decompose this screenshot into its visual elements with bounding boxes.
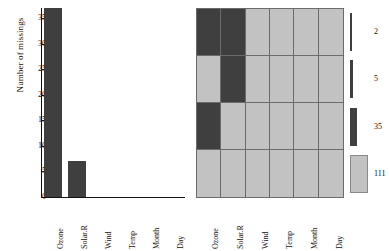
- barplot-y-tick-value: 20: [24, 91, 46, 99]
- barplot-x-label-ozone: Ozone: [56, 228, 65, 249]
- combination-cell: [319, 150, 343, 197]
- combination-cell: [197, 9, 221, 56]
- combination-cell: [246, 9, 270, 56]
- combination-cell: [221, 150, 245, 197]
- barplot-x-label-day: Day: [176, 236, 185, 249]
- legend-count-label: 5: [374, 75, 378, 83]
- barplot-y-tick-label: 30: [12, 40, 46, 48]
- combination-x-label-temp: Temp: [285, 231, 294, 249]
- combination-x-tick-labels: OzoneSolar.RWindTempMonthDay: [196, 200, 344, 251]
- bar-ozone: [44, 8, 62, 197]
- barplot-y-tick-value: 5: [24, 167, 46, 175]
- combination-cell: [246, 56, 270, 103]
- combination-cell: [319, 103, 343, 150]
- barplot-x-tick-labels: OzoneSolar.RWindTempMonthDay: [41, 200, 185, 251]
- legend-count-label: 111: [374, 170, 385, 178]
- barplot-y-tick-value: 10: [24, 142, 46, 150]
- combination-x-label-day: Day: [335, 236, 344, 249]
- combination-cell: [294, 150, 318, 197]
- bar-solar-r: [68, 161, 86, 197]
- combination-count-legend: 2535111: [350, 8, 389, 198]
- combination-x-label-solar-r: Solar.R: [236, 225, 245, 249]
- combination-cell: [197, 56, 221, 103]
- legend-row: 2: [350, 13, 389, 51]
- legend-row: 5: [350, 60, 389, 98]
- combination-cell: [221, 9, 245, 56]
- combination-cell: [197, 150, 221, 197]
- barplot-y-tick-label: 25: [12, 65, 46, 73]
- combination-cell: [221, 56, 245, 103]
- combination-cell: [294, 103, 318, 150]
- legend-proportion-bar: [350, 108, 357, 146]
- barplot-y-tick-label: 15: [12, 116, 46, 124]
- legend-count-label: 2: [374, 28, 378, 36]
- barplot-x-label-wind: Wind: [104, 232, 113, 249]
- combination-cell: [270, 9, 294, 56]
- combination-cell: [319, 9, 343, 56]
- combination-x-label-wind: Wind: [261, 232, 270, 249]
- barplot-y-tick-label: 5: [12, 167, 46, 175]
- combination-cell: [270, 150, 294, 197]
- barplot-y-tick-label: 10: [12, 142, 46, 150]
- combination-cell: [319, 56, 343, 103]
- combination-cell: [294, 9, 318, 56]
- combination-cell: [270, 56, 294, 103]
- combination-cell: [246, 103, 270, 150]
- legend-proportion-bar: [350, 60, 353, 98]
- barplot-x-label-temp: Temp: [128, 231, 137, 249]
- legend-row: 111: [350, 155, 389, 193]
- barplot-x-axis-line: [41, 197, 185, 198]
- combination-grid: [196, 8, 344, 198]
- combination-cell: [246, 150, 270, 197]
- barplot-y-tick-value: 15: [24, 116, 46, 124]
- barplot-y-tick-value: 30: [24, 40, 46, 48]
- legend-proportion-bar: [350, 155, 368, 193]
- combination-matrix-panel: Combinations OzoneSolar.RWindTempMonthDa…: [190, 0, 389, 251]
- legend-row: 35: [350, 108, 389, 146]
- combination-cell: [294, 56, 318, 103]
- legend-count-label: 35: [374, 123, 382, 131]
- barplot-x-label-solar-r: Solar.R: [80, 225, 89, 249]
- barplot-y-tick-label: 20: [12, 91, 46, 99]
- combination-cell: [270, 103, 294, 150]
- combination-cell: [221, 103, 245, 150]
- legend-proportion-bar: [350, 13, 352, 51]
- combination-x-label-month: Month: [310, 228, 319, 249]
- combination-x-label-ozone: Ozone: [211, 228, 220, 249]
- barplot-y-tick-value: 25: [24, 65, 46, 73]
- barplot-y-tick-value: 35: [24, 14, 46, 22]
- missings-barplot: Number of missings 35302520151050 OzoneS…: [0, 0, 190, 251]
- barplot-x-label-month: Month: [152, 228, 161, 249]
- combination-cell: [197, 103, 221, 150]
- barplot-y-tick-label: 35: [12, 14, 46, 22]
